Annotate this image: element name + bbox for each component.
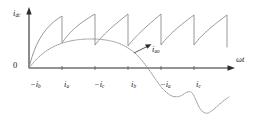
axis-group [26, 7, 235, 71]
waveform-plot [0, 0, 254, 123]
x-tick-symbol: −i [160, 79, 168, 89]
iao-callout-arrow [134, 44, 152, 53]
y-axis-label: idc [13, 3, 20, 19]
callout-line [134, 46, 148, 53]
x-tick-symbol: −i [94, 79, 102, 89]
x-tick-subscript: b [38, 83, 41, 89]
x-tick-subscript: c [198, 83, 200, 89]
annotation-label-iao: iao [152, 39, 160, 55]
figure-container: idc 0 ωt iao −ib ia −ic ib −ia ic [0, 0, 254, 123]
y-axis-subscript: dc [15, 12, 20, 18]
annotation-subscript: ao [154, 48, 159, 54]
x-tick-subscript: a [66, 83, 69, 89]
x-axis-arrowhead [228, 65, 236, 70]
x-tick-subscript: b [133, 83, 136, 89]
x-tick-subscript: c [102, 83, 104, 89]
x-tick-label: ia [64, 74, 69, 90]
x-tick-label: −ib [30, 74, 41, 90]
x-tick-subscript: a [168, 83, 171, 89]
x-tick-label: ic [196, 74, 201, 90]
idc-waveform [29, 14, 227, 68]
x-tick-symbol: −i [30, 79, 38, 89]
origin-label: 0 [13, 61, 17, 70]
x-tick-label: −ic [94, 74, 104, 90]
x-axis-label: ωt [236, 55, 244, 64]
callout-arrowhead [145, 44, 152, 48]
series-idc [29, 14, 227, 68]
y-axis-arrowhead [26, 7, 31, 15]
x-tick-label: −ia [160, 74, 171, 90]
x-tick-label: ib [131, 74, 136, 90]
